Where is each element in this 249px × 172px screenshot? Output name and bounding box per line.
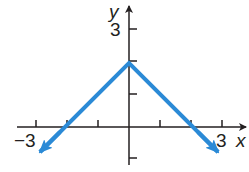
- right-arrow-icon: [198, 132, 218, 152]
- y-tick-label-3: 3: [110, 19, 121, 40]
- y-ticks: [129, 29, 137, 158]
- x-axis-label: x: [235, 130, 247, 151]
- left-arrow-icon: [40, 132, 60, 152]
- graph: y 3 −3 3 x: [0, 0, 249, 172]
- x-tick-label-neg3: −3: [14, 130, 36, 151]
- x-tick-label-3: 3: [216, 130, 227, 151]
